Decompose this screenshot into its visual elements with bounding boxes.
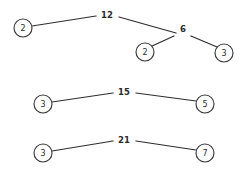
node-circle bbox=[196, 144, 214, 162]
labels-layer: 1261521 bbox=[101, 10, 186, 145]
root-value-label: 21 bbox=[118, 135, 130, 145]
root-value-label: 12 bbox=[101, 10, 113, 20]
edge-15-to-3 bbox=[52, 93, 113, 102]
node-circle bbox=[14, 19, 32, 37]
node-circle bbox=[215, 44, 233, 62]
node-circle bbox=[34, 95, 52, 113]
edge-21-to-3 bbox=[52, 141, 113, 151]
edge-6-to-2 bbox=[152, 36, 174, 46]
root-value-label: 15 bbox=[118, 87, 130, 97]
node-circle bbox=[34, 144, 52, 162]
edge-21-to-7 bbox=[136, 141, 196, 150]
diagram-canvas: 2233537 1261521 bbox=[0, 0, 241, 172]
edge-12-to-6 bbox=[119, 17, 176, 33]
edges-layer bbox=[32, 16, 217, 151]
node-circle bbox=[196, 95, 214, 113]
internal-value-label: 6 bbox=[180, 24, 186, 34]
edge-6-to-3 bbox=[191, 36, 217, 47]
edge-12-to-2 bbox=[32, 16, 96, 26]
edge-15-to-5 bbox=[136, 93, 196, 101]
factor-tree-graph: 2233537 1261521 bbox=[0, 0, 241, 172]
node-circle bbox=[136, 43, 154, 61]
